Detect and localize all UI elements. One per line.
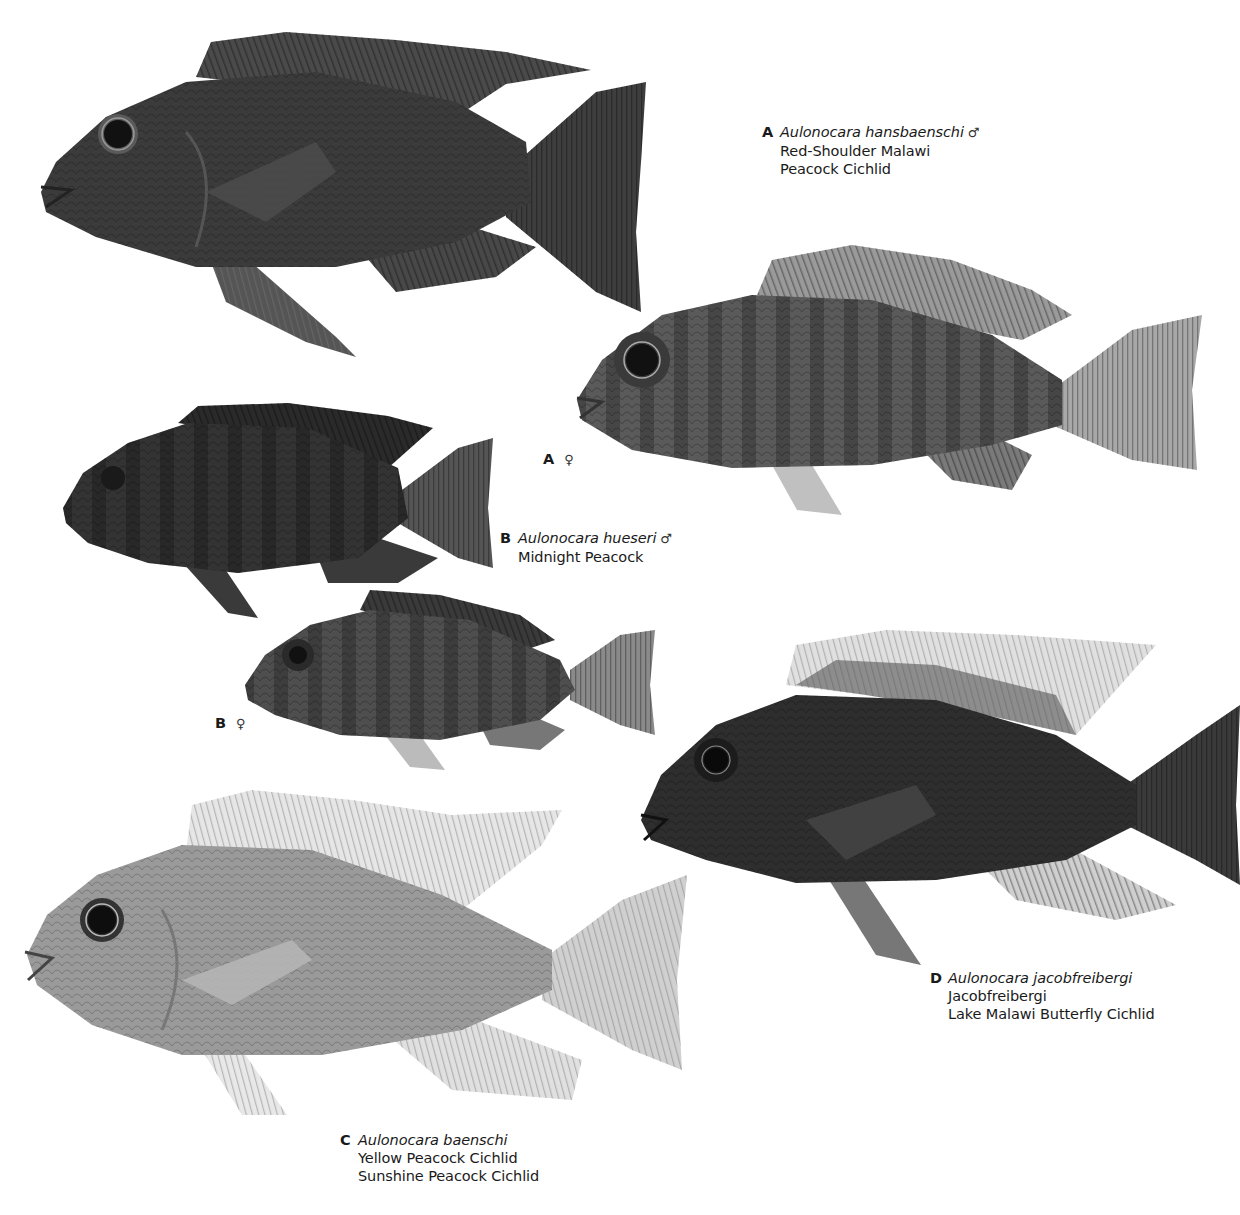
scientific-name: Aulonocara jacobfreibergi <box>948 970 1132 986</box>
specimen-letter: A <box>543 451 554 467</box>
common-name: Sunshine Peacock Cichlid <box>358 1168 539 1184</box>
caption-d: DAulonocara jacobfreibergi Jacobfreiberg… <box>930 969 1155 1023</box>
common-name: Peacock Cichlid <box>780 161 891 177</box>
specimen-letter: B <box>215 715 226 731</box>
scientific-name: Aulonocara hansbaenschi <box>780 124 964 140</box>
female-symbol-icon: ♀ <box>236 716 246 731</box>
caption-b-male: BAulonocara hueseri♂ Midnight Peacock <box>500 529 672 566</box>
caption-a-female: A♀ <box>543 451 574 467</box>
specimen-letter: D <box>930 969 948 987</box>
specimen-letter: A <box>762 123 780 141</box>
common-name: Red-Shoulder Malawi <box>780 143 930 159</box>
specimen-letter: C <box>340 1131 358 1149</box>
female-symbol-icon: ♀ <box>564 452 574 467</box>
common-name: Lake Malawi Butterfly Cichlid <box>948 1006 1155 1022</box>
fish-illustration-b-female <box>240 585 660 770</box>
scientific-name: Aulonocara baenschi <box>358 1132 507 1148</box>
male-symbol-icon: ♂ <box>660 531 672 546</box>
common-name: Jacobfreibergi <box>948 988 1047 1004</box>
common-name: Yellow Peacock Cichlid <box>358 1150 517 1166</box>
fish-illustration-d <box>636 625 1240 965</box>
caption-c: CAulonocara baenschi Yellow Peacock Cich… <box>340 1131 539 1185</box>
caption-b-female: B♀ <box>215 715 246 731</box>
fish-illustration-a-female <box>572 240 1212 515</box>
fish-illustration-c <box>22 790 692 1120</box>
common-name: Midnight Peacock <box>518 549 643 565</box>
specimen-letter: B <box>500 529 518 547</box>
male-symbol-icon: ♂ <box>968 125 980 140</box>
caption-a-male: AAulonocara hansbaenschi♂ Red-Shoulder M… <box>762 123 979 178</box>
scientific-name: Aulonocara hueseri <box>518 530 656 546</box>
